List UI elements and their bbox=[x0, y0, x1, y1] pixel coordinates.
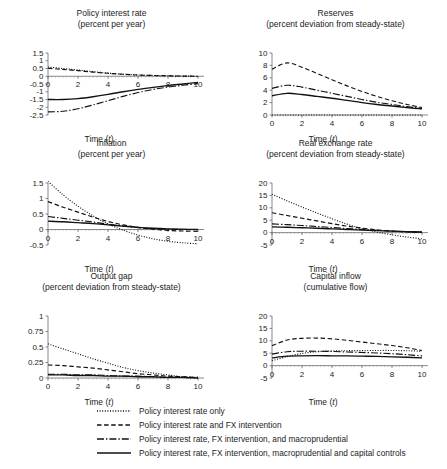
y-tick-label: 5 bbox=[263, 216, 268, 225]
panel-title-subtitle: (percent deviation from steady-state) bbox=[224, 19, 447, 30]
chart-legend: Policy interest rate onlyPolicy interest… bbox=[0, 404, 447, 469]
y-tick-label: 10 bbox=[259, 336, 268, 345]
plot-wrap-policy-interest-rate: 1.510.50-0.5-1-1.5-2-2.50246810 bbox=[0, 29, 223, 133]
y-tick-label: -2.5 bbox=[30, 111, 44, 120]
x-tick-label: 6 bbox=[360, 237, 365, 246]
y-tick-label: -0.5 bbox=[30, 241, 44, 250]
series-line-dashdot bbox=[48, 84, 198, 112]
y-tick-label: 2 bbox=[263, 98, 268, 107]
plot-area-capital-inflow: 20151050-50246810 bbox=[224, 292, 447, 396]
y-tick-label: 8 bbox=[263, 61, 268, 70]
x-tick-label: 8 bbox=[390, 237, 395, 246]
y-tick-label: 0 bbox=[263, 111, 268, 120]
x-tick-label: 2 bbox=[76, 80, 81, 89]
panel-title-main: Output gap bbox=[90, 271, 132, 281]
panel-title-main: Inflation bbox=[97, 138, 127, 148]
plot-area-real-exchange-rate: 20151050-50246810 bbox=[224, 159, 447, 263]
plot-wrap-output-gap: 10.750.50.2500246810 bbox=[0, 292, 223, 396]
panel-title-subtitle: (cumulative flow) bbox=[224, 282, 447, 293]
panel-title-main: Real exchange rate bbox=[299, 138, 373, 148]
panel-title-subtitle: (percent deviation from steady-state) bbox=[0, 282, 223, 293]
x-tick-label: 10 bbox=[418, 370, 427, 379]
y-tick-label: -5 bbox=[260, 374, 268, 383]
plot-area-policy-interest-rate: 1.510.50-0.5-1-1.5-2-2.50246810 bbox=[0, 29, 223, 133]
y-tick-label: 15 bbox=[259, 324, 268, 333]
x-tick-label: 4 bbox=[330, 237, 335, 246]
y-tick-label: 1.5 bbox=[32, 179, 44, 188]
y-tick-label: 0.75 bbox=[28, 327, 44, 336]
panel-title-subtitle: (percent deviation from steady-state) bbox=[224, 149, 447, 160]
y-tick-label: 0.5 bbox=[32, 343, 44, 352]
panel-title-output-gap: Output gap(percent deviation from steady… bbox=[0, 271, 223, 292]
y-tick-label: -5 bbox=[260, 241, 268, 250]
legend-item-dashdot[interactable]: Policy interest rate, FX intervention, a… bbox=[0, 432, 447, 446]
legend-item-solid[interactable]: Policy interest rate, FX intervention, m… bbox=[0, 446, 447, 460]
plot-area-output-gap: 10.750.50.2500246810 bbox=[0, 292, 223, 396]
y-tick-label: 0 bbox=[39, 374, 44, 383]
x-tick-label: 2 bbox=[300, 370, 305, 379]
panel-title-main: Reserves bbox=[318, 8, 354, 18]
x-tick-label: 0 bbox=[46, 234, 51, 243]
y-tick-label: 0 bbox=[263, 228, 268, 237]
legend-line-dotted-icon bbox=[96, 405, 132, 417]
panel-title-inflation: Inflation(percent per year) bbox=[0, 138, 223, 159]
panel-title-real-exchange-rate: Real exchange rate(percent deviation fro… bbox=[224, 138, 447, 159]
x-tick-label: 0 bbox=[270, 237, 275, 246]
x-tick-label: 10 bbox=[194, 382, 203, 391]
y-tick-label: 10 bbox=[259, 203, 268, 212]
series-line-dashdot bbox=[272, 351, 422, 356]
panel-inflation: Inflation(percent per year)1.510.50-0.50… bbox=[0, 138, 223, 268]
legend-line-dashdot-icon bbox=[96, 433, 132, 445]
panel-title-main: Capital inflow bbox=[310, 271, 361, 281]
panel-output-gap: Output gap(percent deviation from steady… bbox=[0, 271, 223, 401]
x-tick-label: 0 bbox=[46, 80, 51, 89]
legend-item-dotted[interactable]: Policy interest rate only bbox=[0, 404, 447, 418]
x-tick-label: 6 bbox=[360, 370, 365, 379]
panel-title-subtitle: (percent per year) bbox=[0, 149, 223, 160]
x-tick-label: 2 bbox=[300, 237, 305, 246]
x-tick-label: 4 bbox=[330, 370, 335, 379]
y-tick-label: 0 bbox=[39, 225, 44, 234]
panel-title-main: Policy interest rate bbox=[77, 8, 147, 18]
x-tick-label: 6 bbox=[360, 119, 365, 128]
y-tick-label: 0.5 bbox=[32, 210, 44, 219]
y-tick-label: 20 bbox=[259, 179, 268, 188]
y-tick-label: 5 bbox=[263, 349, 268, 358]
x-tick-label: 8 bbox=[390, 370, 395, 379]
x-tick-label: 2 bbox=[76, 234, 81, 243]
y-tick-label: 4 bbox=[263, 86, 268, 95]
panel-title-policy-interest-rate: Policy interest rate(percent per year) bbox=[0, 8, 223, 29]
x-tick-label: 10 bbox=[194, 234, 203, 243]
x-tick-label: 6 bbox=[136, 80, 141, 89]
plot-wrap-real-exchange-rate: 20151050-50246810 bbox=[224, 159, 447, 263]
panel-title-reserves: Reserves(percent deviation from steady-s… bbox=[224, 8, 447, 29]
panel-real-exchange-rate: Real exchange rate(percent deviation fro… bbox=[224, 138, 447, 268]
plot-area-inflation: 1.510.50-0.50246810 bbox=[0, 159, 223, 263]
legend-line-dashed-icon bbox=[96, 419, 132, 431]
x-tick-label: 0 bbox=[270, 119, 275, 128]
plot-wrap-reserves: 10864200246810 bbox=[224, 29, 447, 133]
x-tick-label: 0 bbox=[46, 382, 51, 391]
series-line-solid bbox=[48, 82, 198, 99]
y-tick-label: 1 bbox=[39, 194, 44, 203]
y-tick-label: 0.25 bbox=[28, 358, 44, 367]
x-tick-label: 4 bbox=[106, 80, 111, 89]
x-tick-label: 8 bbox=[166, 382, 171, 391]
chart-grid: Policy interest rate(percent per year)1.… bbox=[0, 0, 447, 405]
legend-item-dashed[interactable]: Policy interest rate and FX intervention bbox=[0, 418, 447, 432]
series-line-dashed bbox=[272, 338, 422, 350]
series-line-solid bbox=[272, 93, 422, 109]
x-tick-label: 4 bbox=[106, 382, 111, 391]
x-tick-label: 2 bbox=[300, 119, 305, 128]
legend-label: Policy interest rate, FX intervention, m… bbox=[139, 447, 406, 459]
x-tick-label: 10 bbox=[194, 80, 203, 89]
legend-label: Policy interest rate only bbox=[139, 405, 225, 417]
x-tick-label: 2 bbox=[76, 382, 81, 391]
x-tick-label: 6 bbox=[136, 382, 141, 391]
x-tick-label: 0 bbox=[270, 370, 275, 379]
y-tick-label: 20 bbox=[259, 312, 268, 321]
panel-title-subtitle: (percent per year) bbox=[0, 19, 223, 30]
series-line-dashed bbox=[48, 202, 198, 232]
series-line-dashed bbox=[48, 68, 198, 76]
legend-label: Policy interest rate and FX intervention bbox=[139, 419, 282, 431]
